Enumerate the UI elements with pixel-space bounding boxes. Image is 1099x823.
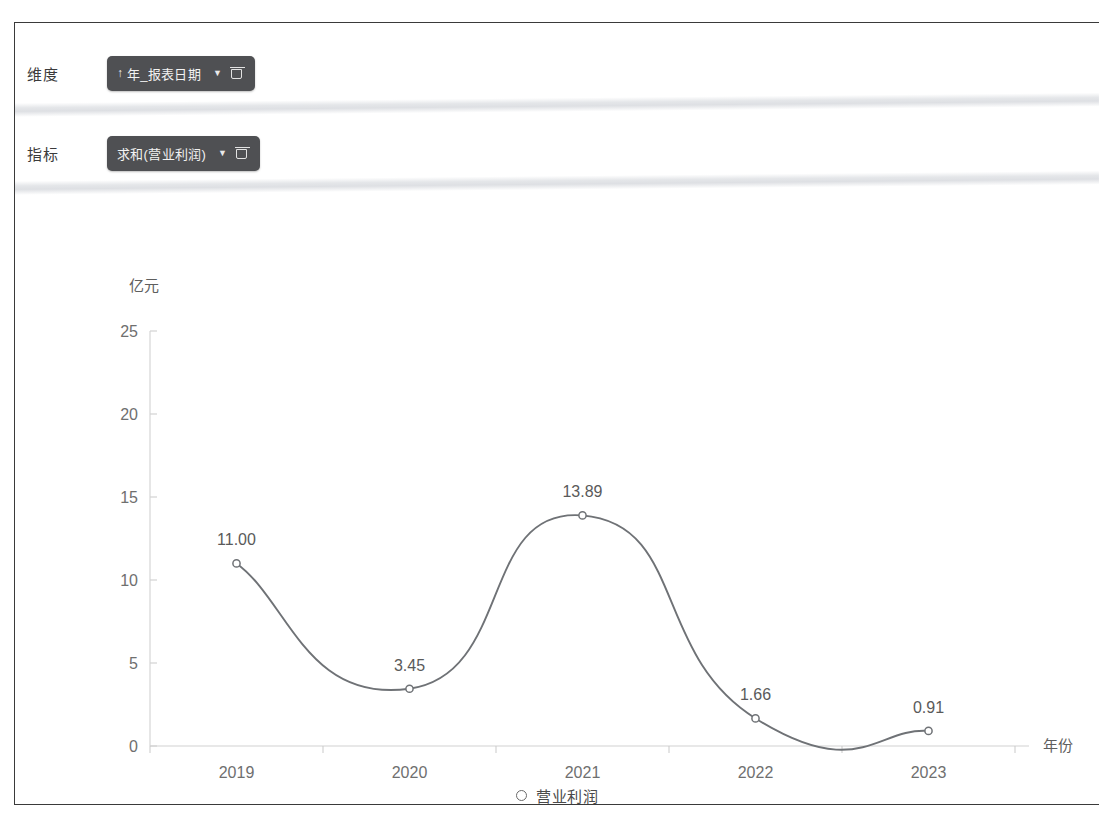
trash-icon[interactable] xyxy=(236,146,249,160)
dimension-shelf: 维度 ↑ 年_报表日期 ▼ xyxy=(15,45,1099,101)
legend-item-label: 营业利润 xyxy=(536,785,598,805)
y-tick-label: 0 xyxy=(129,738,138,755)
y-tick-label: 25 xyxy=(120,323,138,340)
x-tick-label: 2019 xyxy=(219,764,255,781)
chart-legend[interactable]: 营业利润 xyxy=(15,785,1099,805)
chevron-down-icon[interactable]: ▼ xyxy=(218,149,227,158)
chevron-down-icon[interactable]: ▼ xyxy=(213,69,222,78)
sort-ascending-icon[interactable]: ↑ xyxy=(117,66,123,80)
y-tick-label: 20 xyxy=(120,406,138,423)
y-axis-title: 亿元 xyxy=(129,277,159,294)
x-tick-label: 2022 xyxy=(738,764,774,781)
metric-shelf-label: 指标 xyxy=(15,143,107,164)
trash-icon[interactable] xyxy=(231,66,244,80)
dimension-shelf-label: 维度 xyxy=(15,63,107,84)
series-line xyxy=(237,515,929,750)
y-tick-label: 15 xyxy=(120,489,138,506)
report-panel: 维度 ↑ 年_报表日期 ▼ 指标 求和(营业利润) ▼ 0510152025 2… xyxy=(14,22,1099,805)
axis-titles: 亿元年份 xyxy=(129,277,1073,754)
metric-chip-label: 求和(营业利润) xyxy=(117,144,206,163)
data-point-label: 13.89 xyxy=(562,483,602,500)
line-chart: 0510152025 20192020202120222023 11.003.4… xyxy=(15,201,1099,805)
hollow-circle-icon xyxy=(516,790,527,801)
dimension-chip-label: 年_报表日期 xyxy=(127,64,201,83)
chart-canvas: 0510152025 20192020202120222023 11.003.4… xyxy=(15,201,1099,805)
data-point-marker[interactable] xyxy=(752,715,759,722)
data-point-label: 0.91 xyxy=(913,699,944,716)
data-point-marker[interactable] xyxy=(925,727,932,734)
y-tick-label: 5 xyxy=(129,655,138,672)
data-point-marker[interactable] xyxy=(406,685,413,692)
data-point-label: 3.45 xyxy=(394,657,425,674)
data-point-marker[interactable] xyxy=(233,560,240,567)
x-axis: 20192020202120222023 xyxy=(150,746,1029,781)
y-axis: 0510152025 xyxy=(120,323,157,755)
marker-group xyxy=(233,512,932,735)
x-axis-title: 年份 xyxy=(1043,737,1073,754)
data-point-marker[interactable] xyxy=(579,512,586,519)
x-tick-label: 2023 xyxy=(911,764,947,781)
dimension-chip[interactable]: ↑ 年_报表日期 ▼ xyxy=(107,56,255,91)
x-tick-label: 2021 xyxy=(565,764,601,781)
x-tick-label: 2020 xyxy=(392,764,428,781)
series-group xyxy=(237,515,929,750)
data-point-label: 1.66 xyxy=(740,686,771,703)
data-point-label: 11.00 xyxy=(217,531,256,548)
metric-chip[interactable]: 求和(营业利润) ▼ xyxy=(107,136,260,171)
y-tick-label: 10 xyxy=(120,572,138,589)
